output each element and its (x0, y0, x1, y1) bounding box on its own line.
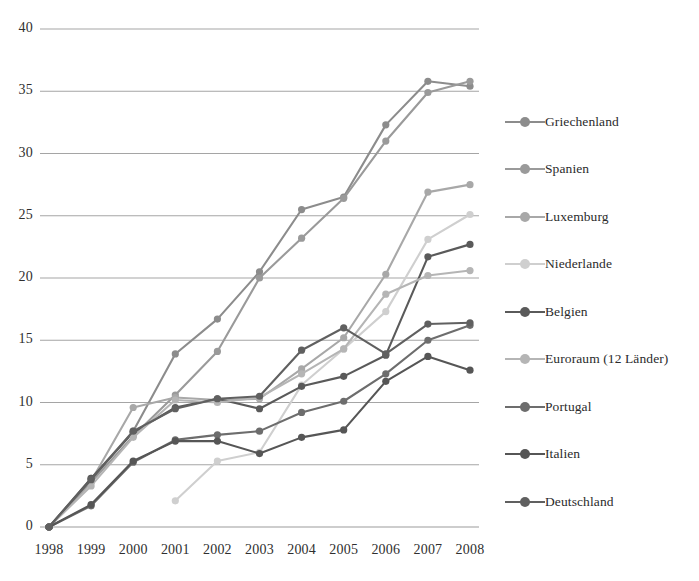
series-marker (256, 450, 263, 457)
legend-item-label: Luxemburg (545, 209, 609, 225)
legend-item[interactable]: Italien (505, 431, 699, 479)
legend-item[interactable]: Euroraum (12 Länder) (505, 336, 699, 384)
series-marker (340, 334, 347, 341)
chart-legend: GriechenlandSpanienLuxemburgNiederlandeB… (505, 98, 699, 526)
legend-item-label: Italien (545, 446, 580, 462)
series-marker (382, 121, 389, 128)
series-layer (45, 78, 473, 531)
legend-swatch-icon (505, 400, 545, 414)
series-marker (256, 428, 263, 435)
series-marker (466, 211, 473, 218)
series-marker (172, 497, 179, 504)
series-marker (130, 428, 137, 435)
series-marker (45, 523, 52, 530)
chart-series (45, 78, 473, 531)
series-marker (424, 320, 431, 327)
legend-item[interactable]: Deutschland (505, 478, 699, 526)
series-marker (298, 235, 305, 242)
series-marker (256, 393, 263, 400)
series-marker (298, 347, 305, 354)
legend-item[interactable]: Luxemburg (505, 193, 699, 241)
series-marker (424, 189, 431, 196)
series-marker (382, 350, 389, 357)
series-marker (172, 350, 179, 357)
legend-item-label: Griechenland (545, 114, 619, 130)
series-marker (172, 405, 179, 412)
legend-swatch-icon (505, 115, 545, 129)
series-line (49, 323, 470, 527)
series-marker (466, 319, 473, 326)
y-tick-label: 35 (0, 82, 33, 98)
series-marker (88, 501, 95, 508)
series-marker (298, 370, 305, 377)
legend-swatch-icon (505, 352, 545, 366)
series-marker (424, 353, 431, 360)
legend-swatch-icon (505, 257, 545, 271)
legend-swatch-icon (505, 495, 545, 509)
y-tick-label: 40 (0, 20, 33, 36)
chart-series (45, 353, 473, 531)
series-marker (298, 383, 305, 390)
legend-swatch-icon (505, 162, 545, 176)
y-tick-label: 15 (0, 331, 33, 347)
series-marker (130, 404, 137, 411)
y-tick-label: 20 (0, 269, 33, 285)
legend-item-label: Euroraum (12 Länder) (545, 351, 668, 367)
series-marker (382, 291, 389, 298)
series-marker (256, 274, 263, 281)
series-marker (298, 409, 305, 416)
line-chart: 4035302520151050 19981999200020012002200… (0, 0, 699, 581)
legend-item-label: Deutschland (545, 494, 614, 510)
y-tick-label: 10 (0, 394, 33, 410)
legend-item-label: Spanien (545, 161, 589, 177)
series-marker (424, 272, 431, 279)
series-marker (340, 345, 347, 352)
series-marker (214, 457, 221, 464)
series-line (49, 356, 470, 527)
series-marker (340, 195, 347, 202)
legend-item[interactable]: Spanien (505, 146, 699, 194)
y-tick-label: 5 (0, 456, 33, 472)
legend-item[interactable]: Niederlande (505, 241, 699, 289)
series-marker (382, 271, 389, 278)
series-marker (88, 476, 95, 483)
series-marker (466, 267, 473, 274)
series-marker (382, 137, 389, 144)
series-marker (214, 348, 221, 355)
legend-swatch-icon (505, 305, 545, 319)
legend-item[interactable]: Portugal (505, 383, 699, 431)
series-marker (424, 337, 431, 344)
series-marker (130, 457, 137, 464)
legend-item-label: Portugal (545, 399, 592, 415)
series-marker (466, 241, 473, 248)
series-marker (466, 181, 473, 188)
series-marker (214, 395, 221, 402)
legend-item[interactable]: Belgien (505, 288, 699, 336)
series-marker (424, 78, 431, 85)
series-marker (340, 426, 347, 433)
y-tick-label: 30 (0, 145, 33, 161)
series-marker (214, 431, 221, 438)
series-marker (424, 236, 431, 243)
y-tick-label: 0 (0, 518, 33, 534)
x-tick-label: 2008 (445, 542, 495, 558)
series-marker (382, 370, 389, 377)
series-marker (466, 78, 473, 85)
series-marker (172, 396, 179, 403)
chart-series (45, 319, 473, 530)
series-marker (382, 378, 389, 385)
y-tick-label: 25 (0, 207, 33, 223)
series-marker (340, 324, 347, 331)
chart-series (45, 322, 473, 531)
series-line (49, 325, 470, 527)
series-marker (466, 367, 473, 374)
series-marker (214, 438, 221, 445)
series-marker (172, 438, 179, 445)
series-marker (214, 315, 221, 322)
legend-item-label: Belgien (545, 304, 588, 320)
series-marker (382, 308, 389, 315)
series-marker (340, 373, 347, 380)
legend-item[interactable]: Griechenland (505, 98, 699, 146)
series-marker (256, 405, 263, 412)
series-marker (424, 253, 431, 260)
